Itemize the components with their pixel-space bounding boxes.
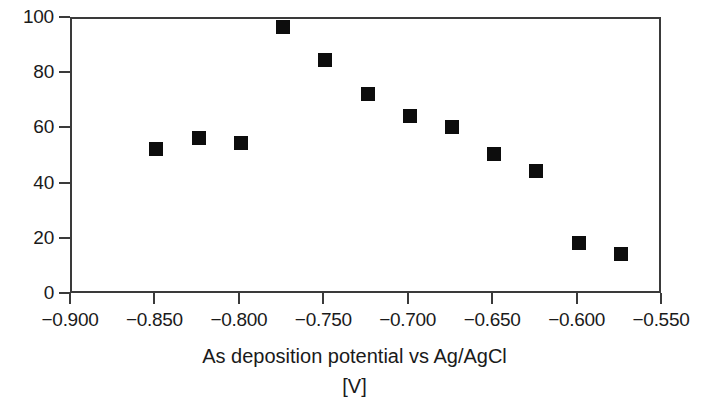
- data-point: [445, 120, 459, 134]
- y-axis-tick: [59, 237, 70, 239]
- data-point: [149, 142, 163, 156]
- y-axis-tick: [59, 126, 70, 128]
- x-axis-units-label: [V]: [0, 374, 709, 399]
- x-axis-tick-label: −0.800: [210, 309, 267, 330]
- x-axis-tick: [407, 293, 409, 304]
- x-axis-tick: [660, 293, 662, 304]
- x-axis-tick: [576, 293, 578, 304]
- x-axis-tick: [69, 293, 71, 304]
- y-axis-tick-label: 20: [33, 228, 54, 247]
- x-axis-tick-label: −0.600: [548, 309, 605, 330]
- x-axis-tick: [238, 293, 240, 304]
- x-axis-tick-label: −0.700: [379, 309, 436, 330]
- x-axis-title: As deposition potential vs Ag/AgCl: [0, 344, 709, 369]
- y-axis-tick: [59, 16, 70, 18]
- data-point: [192, 131, 206, 145]
- plot-area: [70, 17, 661, 293]
- x-axis-tick-label: −0.550: [633, 309, 690, 330]
- data-point: [234, 136, 248, 150]
- x-axis-tick-label: −0.850: [126, 309, 183, 330]
- y-axis-tick: [59, 71, 70, 73]
- y-axis-tick-label: 100: [23, 7, 54, 26]
- x-axis-tick: [322, 293, 324, 304]
- data-point: [318, 53, 332, 67]
- data-point: [403, 109, 417, 123]
- x-axis-tick-label: −0.650: [464, 309, 521, 330]
- x-axis-tick-label: −0.750: [295, 309, 352, 330]
- y-axis-tick: [59, 182, 70, 184]
- y-axis-tick-label: 60: [33, 117, 54, 136]
- x-axis-tick-label: −0.900: [42, 309, 99, 330]
- data-point: [276, 20, 290, 34]
- x-axis-tick: [491, 293, 493, 304]
- scatter-chart-figure: 020406080100 −0.900−0.850−0.800−0.750−0.…: [0, 0, 709, 408]
- y-axis-tick-label: 80: [33, 62, 54, 81]
- x-axis-tick: [153, 293, 155, 304]
- x-axis: −0.900−0.850−0.800−0.750−0.700−0.650−0.6…: [0, 293, 709, 333]
- data-point: [529, 164, 543, 178]
- data-point: [487, 147, 501, 161]
- y-axis-tick-label: 40: [33, 173, 54, 192]
- data-point: [361, 87, 375, 101]
- data-point: [614, 247, 628, 261]
- data-point: [572, 236, 586, 250]
